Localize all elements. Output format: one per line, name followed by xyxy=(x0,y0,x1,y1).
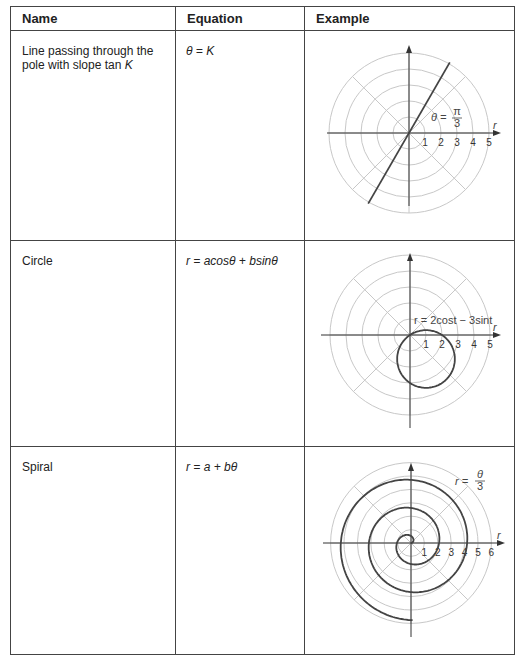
annotation-text: r = 2cost − 3sint xyxy=(414,314,492,326)
annotation-num: θ xyxy=(477,468,483,480)
tick-label: 5 xyxy=(475,547,481,558)
axis-label: r xyxy=(493,119,498,131)
tick-label: 4 xyxy=(470,137,476,148)
tick-label: 6 xyxy=(489,547,495,558)
annotation-den: 3 xyxy=(454,117,460,129)
y-axis-arrow xyxy=(408,463,414,471)
tick-label: 1 xyxy=(422,547,428,558)
axis-label: r xyxy=(497,529,502,541)
header-name: Name xyxy=(11,7,176,31)
row-name: Spiral xyxy=(11,447,176,655)
header-equation: Equation xyxy=(176,7,305,31)
annotation-num: π xyxy=(453,105,461,117)
polar-curves-table: Name Equation Example Line passing throu… xyxy=(10,6,515,655)
name-var: K xyxy=(125,58,133,72)
polar-plot-line: r12345θ =π3 xyxy=(305,31,515,240)
axis-label: r xyxy=(493,321,498,333)
tick-label: 3 xyxy=(455,339,461,350)
y-axis-arrow xyxy=(406,45,412,53)
annotation-text: r = xyxy=(455,475,469,487)
tick-label: 2 xyxy=(439,339,445,350)
tick-label: 2 xyxy=(438,137,444,148)
row-example: r12345r = 2cost − 3sint xyxy=(305,241,515,447)
row-equation: r = a + bθ xyxy=(176,447,305,655)
table-row: Spiral r = a + bθ r123456r =θ3 xyxy=(11,447,515,655)
tick-label: 3 xyxy=(454,137,460,148)
name-text: Line passing through the xyxy=(22,44,153,58)
row-equation: r = acosθ + bsinθ xyxy=(176,241,305,447)
annotation-den: 3 xyxy=(477,480,483,492)
table-row: Circle r = acosθ + bsinθ r12345r = 2cost… xyxy=(11,241,515,447)
y-axis-arrow xyxy=(407,253,413,261)
tick-label: 3 xyxy=(448,547,454,558)
row-equation: θ = K xyxy=(176,31,305,241)
polar-plot-circle: r12345r = 2cost − 3sint xyxy=(305,241,515,446)
row-example: r12345θ =π3 xyxy=(305,31,515,241)
row-example: r123456r =θ3 xyxy=(305,447,515,655)
table-row: Line passing through thepole with slope … xyxy=(11,31,515,241)
tick-label: 5 xyxy=(486,137,492,148)
row-name: Circle xyxy=(11,241,176,447)
annotation-text: θ = xyxy=(431,111,447,123)
tick-label: 1 xyxy=(423,339,429,350)
tick-label: 1 xyxy=(422,137,428,148)
tick-label: 5 xyxy=(487,339,493,350)
polar-plot-spiral: r123456r =θ3 xyxy=(305,447,515,654)
header-example: Example xyxy=(305,7,515,31)
name-text: pole with slope tan xyxy=(22,58,125,72)
row-name: Line passing through thepole with slope … xyxy=(11,31,176,241)
tick-label: 4 xyxy=(471,339,477,350)
